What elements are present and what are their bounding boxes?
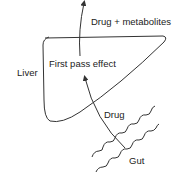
drug-metabolites-arrow [80, 3, 85, 56]
diagram-canvas [0, 0, 193, 181]
drug-metabolites-label: Drug + metabolites [91, 17, 171, 27]
drug-label: Drug [104, 110, 125, 120]
liver-label: Liver [17, 68, 38, 78]
gut-wall-lower [96, 124, 159, 172]
gut-label: Gut [129, 156, 144, 166]
first-pass-effect-label: First pass effect [49, 59, 116, 69]
